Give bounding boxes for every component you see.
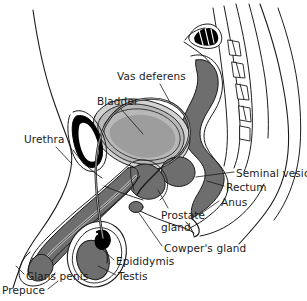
leader-cowpers (139, 213, 162, 246)
label-urethra: Urethra (24, 134, 64, 146)
sacrum (185, 24, 222, 48)
seminal-vesicle (161, 157, 195, 187)
label-bladder: Bladder (97, 96, 138, 108)
label-glans-penis: Glans penis (26, 271, 88, 283)
label-cowpers-gland: Cowper's gland (164, 243, 246, 255)
label-epididymis: Epididymis (116, 256, 174, 268)
cowpers-gland (129, 202, 143, 213)
label-testis: Testis (118, 271, 148, 283)
label-vas-deferens: Vas deferens (117, 71, 186, 83)
label-prostate-gland: Prostate gland (161, 210, 207, 233)
label-prepuce: Prepuce (2, 285, 45, 297)
label-anus: Anus (221, 197, 247, 209)
label-rectum: Rectum (226, 182, 267, 194)
anatomy-diagram: Vas deferens Bladder Urethra Seminal ves… (0, 0, 307, 301)
leader-urethra (56, 147, 72, 164)
label-seminal-vesicle: Seminal vesicle (236, 168, 307, 180)
